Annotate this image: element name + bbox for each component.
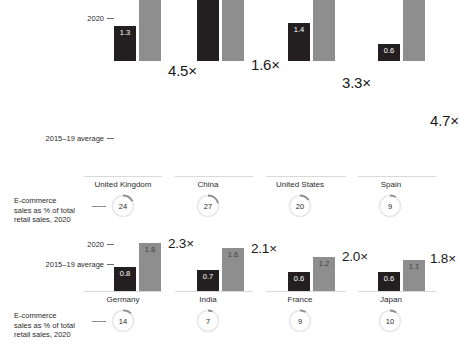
panel-baseline [175,291,253,292]
gauge-caption-top: E-commerce sales as % of total retail sa… [14,196,75,225]
bar-value-label: 1.2 [313,259,335,268]
gauge-value: 10 [377,308,403,334]
gauge-caption-line2: sales as % of total [14,321,75,331]
gauge-caption-line1: E-commerce [14,196,75,206]
bar-current-2020: 2.8 [403,0,425,61]
panel-germany: 0.8 1.8 2.3× Germany 14 [84,230,166,345]
multiplier-label: 4.7× [430,112,459,129]
gauge-value: 20 [287,193,313,219]
bar-group: 0.6 2.8 [378,0,425,61]
gauge-caption-leader [92,206,106,207]
country-label: France [256,295,344,304]
chart-row-bottom: 2020 2015–19 average 0.8 1.8 2.3× German… [0,230,459,345]
bar-current-2020: 1.6 [222,248,244,291]
country-label: Japan [348,295,434,304]
bar-group: 0.6 1.1 [378,237,425,291]
bar-value-label: 1.3 [114,28,136,37]
bar-value-label: 0.6 [378,274,400,283]
bar-value-label: 1.1 [403,262,425,271]
ecommerce-share-gauge: 9 [377,193,403,219]
panel-baseline [175,176,253,177]
bar-current-2020: 1.1 [403,260,425,291]
bar-previous-average: 3.0 [197,0,219,61]
country-label: China [165,180,251,189]
bar-fill [313,0,335,61]
bar-current-2020: 1.2 [313,257,335,291]
panel-baseline [358,176,436,177]
bar-value-label: 0.7 [197,272,219,281]
country-label: United States [256,180,344,189]
bar-current-2020: 4.8 [222,0,244,61]
panel-baseline [266,176,346,177]
bar-fill [222,0,244,61]
country-label: India [165,295,251,304]
panel-united-kingdom: 1.3 5.7 4.5× United Kingdom 24 [84,0,166,230]
gauge-value: 9 [287,308,313,334]
panel-baseline [84,291,162,292]
bar-value-label: 1.4 [288,25,310,34]
chart-row-top: 2020 2015–19 average 1.3 5.7 4.5× United… [0,0,459,230]
bar-fill [403,0,425,61]
bar-current-2020: 4.6 [313,0,335,61]
bar-value-label: 0.6 [288,274,310,283]
panel-baseline [266,291,346,292]
ecommerce-share-gauge: 27 [195,193,221,219]
ecommerce-share-gauge: 7 [195,308,221,334]
gauge-value: 9 [377,193,403,219]
bar-fill [139,0,161,61]
bar-group: 3.0 4.8 [197,0,244,61]
gauge-caption-line3: retail sales, 2020 [14,215,75,225]
bar-previous-average: 0.6 [288,272,310,291]
bar-group: 1.4 4.6 [288,0,335,61]
ecommerce-share-gauge: 10 [377,308,403,334]
bar-previous-average: 1.4 [288,23,310,61]
gauge-caption-bottom: E-commerce sales as % of total retail sa… [14,311,75,340]
multiplier-label: 1.8× [430,251,456,266]
gauge-caption-line3: retail sales, 2020 [14,330,75,340]
bar-value-label: 1.8 [139,245,161,254]
bar-current-2020: 1.8 [139,243,161,291]
panel-china: 3.0 4.8 1.6× China 27 [175,0,257,230]
panel-india: 0.7 1.6 2.1× India 7 [175,230,257,345]
ecommerce-share-gauge: 9 [287,308,313,334]
bar-previous-average: 0.6 [378,272,400,291]
gauge-value: 14 [110,308,136,334]
panel-united-states: 1.4 4.6 3.3× United States 20 [266,0,350,230]
ecommerce-share-gauge: 24 [110,193,136,219]
gauge-caption-line2: sales as % of total [14,206,75,216]
bar-previous-average: 1.3 [114,26,136,61]
bar-current-2020: 5.7 [139,0,161,61]
small-multiples-bar-chart: 2020 2015–19 average 1.3 5.7 4.5× United… [0,0,459,345]
bar-group: 1.3 5.7 [114,0,161,61]
country-label: Spain [348,180,434,189]
gauge-caption-line1: E-commerce [14,311,75,321]
bar-previous-average: 0.7 [197,270,219,291]
ecommerce-share-gauge: 20 [287,193,313,219]
ecommerce-share-gauge: 14 [110,308,136,334]
panel-baseline [84,176,162,177]
gauge-value: 24 [110,193,136,219]
gauge-value: 27 [195,193,221,219]
panel-japan: 0.6 1.1 1.8× Japan 10 [358,230,440,345]
bar-group: 0.8 1.8 [114,237,161,291]
bar-value-label: 0.8 [114,269,136,278]
bar-value-label: 1.6 [222,250,244,259]
bar-previous-average: 0.6 [378,44,400,61]
bar-group: 0.7 1.6 [197,237,244,291]
bar-previous-average: 0.8 [114,267,136,291]
gauge-caption-leader [92,321,106,322]
bar-group: 0.6 1.2 [288,237,335,291]
country-label: United Kingdom [80,180,166,189]
bar-fill [197,0,219,61]
country-label: Germany [80,295,166,304]
panel-france: 0.6 1.2 2.0× France 9 [266,230,350,345]
panel-spain: 0.6 2.8 4.7× Spain 9 [358,0,440,230]
panel-baseline [358,291,436,292]
gauge-value: 7 [195,308,221,334]
bar-value-label: 0.6 [378,46,400,55]
